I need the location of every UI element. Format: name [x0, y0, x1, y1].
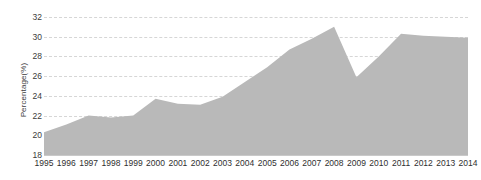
area-series-percentage	[44, 17, 468, 155]
x-axis-tick-label: 2001	[168, 157, 187, 169]
x-axis-tick-label: 1995	[35, 157, 54, 169]
y-axis-tick-label: 22	[33, 112, 42, 120]
x-axis-tick-label: 2003	[213, 157, 232, 169]
x-axis-tick-label: 2014	[459, 157, 478, 169]
y-axis-tick-label: 28	[33, 52, 42, 60]
area-chart: Percentage(%) 1820222426283032 199519961…	[0, 0, 481, 180]
y-axis-tick-label: 20	[33, 131, 42, 139]
x-axis-tick-labels: 1995199619971998199920002001200220032004…	[44, 157, 468, 173]
x-axis-tick-label: 2011	[392, 157, 410, 169]
x-axis-tick-label: 2006	[280, 157, 299, 169]
x-axis-tick-label: 2009	[347, 157, 366, 169]
x-axis-tick-label: 1997	[79, 157, 98, 169]
x-axis-tick-label: 1996	[57, 157, 76, 169]
x-axis-tick-label: 2008	[325, 157, 344, 169]
x-axis-tick-label: 2005	[258, 157, 277, 169]
x-axis-tick-label: 2012	[414, 157, 433, 169]
y-axis-tick-label: 32	[33, 13, 42, 21]
x-axis-tick-label: 2007	[302, 157, 321, 169]
x-axis-tick-label: 2000	[146, 157, 165, 169]
x-axis-tick-label: 2002	[191, 157, 210, 169]
gridline	[44, 155, 468, 156]
x-axis-tick-label: 2013	[436, 157, 455, 169]
x-axis-tick-label: 2004	[235, 157, 254, 169]
y-axis-tick-label: 26	[33, 72, 42, 80]
x-axis-tick-label: 1998	[101, 157, 120, 169]
x-axis-tick-label: 1999	[124, 157, 143, 169]
area-fill-path	[44, 27, 468, 155]
y-axis-tick-label: 24	[33, 92, 42, 100]
plot-area	[44, 17, 468, 155]
x-axis-tick-label: 2010	[369, 157, 388, 169]
y-axis-tick-labels: 1820222426283032	[26, 0, 42, 180]
y-axis-tick-label: 30	[33, 33, 42, 41]
